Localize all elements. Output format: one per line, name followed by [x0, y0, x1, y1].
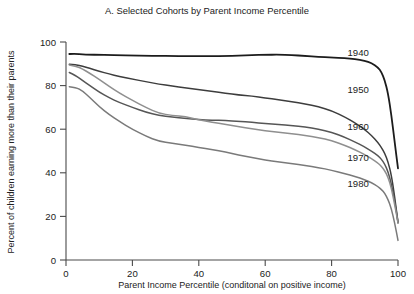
- x-tick-group: 020406080100: [63, 260, 406, 279]
- x-tick-label: 40: [193, 268, 204, 279]
- series-label-1960: 1960: [347, 121, 368, 132]
- x-tick-label: 100: [390, 268, 406, 279]
- y-tick-label: 80: [45, 80, 56, 91]
- series-path-group: [69, 54, 398, 240]
- series-label-1970: 1970: [347, 152, 368, 163]
- series-label-1950: 1950: [347, 84, 368, 95]
- chart-title: A. Selected Cohorts by Parent Income Per…: [105, 5, 309, 16]
- chart-figure: A. Selected Cohorts by Parent Income Per…: [0, 0, 414, 294]
- x-axis-title: Parent Income Percentile (conditonal on …: [118, 280, 346, 290]
- y-axis: 020406080100: [40, 37, 66, 266]
- y-tick-label: 40: [45, 167, 56, 178]
- series-line-1980: [69, 87, 398, 241]
- y-tick-label: 60: [45, 124, 56, 135]
- x-tick-label: 20: [127, 268, 138, 279]
- y-tick-label: 100: [40, 37, 56, 48]
- x-axis: 020406080100: [63, 260, 406, 279]
- x-tick-label: 80: [326, 268, 337, 279]
- y-tick-label: 20: [45, 211, 56, 222]
- series-label-1980: 1980: [347, 178, 368, 189]
- y-tick-group: 020406080100: [40, 37, 66, 266]
- x-tick-label: 0: [63, 268, 68, 279]
- y-tick-label: 0: [51, 255, 56, 266]
- x-tick-label: 60: [260, 268, 271, 279]
- series-label-group: 19401950196019701980: [347, 47, 368, 189]
- series-label-1940: 1940: [347, 47, 368, 58]
- y-axis-title: Percent of children earning more than th…: [6, 50, 16, 254]
- cohort-line-chart: A. Selected Cohorts by Parent Income Per…: [0, 0, 414, 294]
